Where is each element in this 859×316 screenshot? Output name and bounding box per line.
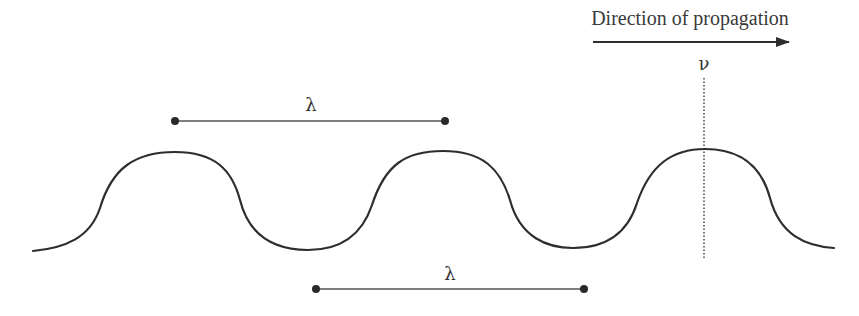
transverse-wave-diagram: Direction of propagation ν λ λ bbox=[0, 0, 859, 316]
endpoint-dot bbox=[171, 117, 179, 125]
endpoint-dot bbox=[441, 117, 449, 125]
wavelength-marker-top: λ bbox=[171, 94, 449, 125]
propagation-direction-label: Direction of propagation bbox=[591, 7, 789, 30]
wave-curve bbox=[33, 149, 834, 251]
wavelength-label-bottom: λ bbox=[444, 263, 455, 284]
velocity-label: ν bbox=[699, 53, 710, 74]
wavelength-label-top: λ bbox=[305, 94, 316, 115]
endpoint-dot bbox=[312, 285, 320, 293]
wavelength-marker-bottom: λ bbox=[312, 263, 588, 293]
endpoint-dot bbox=[580, 285, 588, 293]
